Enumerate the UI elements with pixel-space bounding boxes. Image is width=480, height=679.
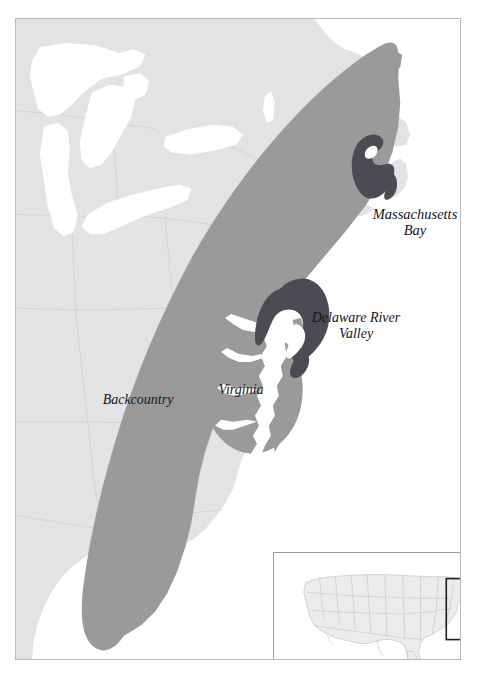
locator-inset (273, 552, 461, 660)
label-massachusetts-bay: Massachusetts Bay (360, 206, 470, 238)
locator-inset-canvas (274, 553, 461, 660)
map-figure: Massachusetts Bay Delaware River Valley … (0, 0, 480, 679)
label-virginia: Virginia (200, 382, 282, 398)
label-delaware-river-valley: Delaware River Valley (300, 310, 412, 341)
label-backcountry: Backcountry (88, 392, 188, 408)
